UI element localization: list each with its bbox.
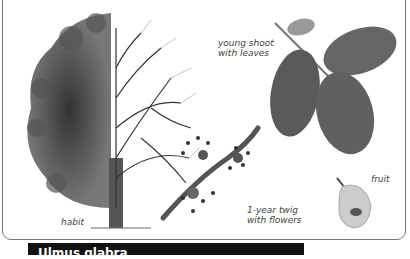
fruit-drawing <box>331 176 381 231</box>
twig-label: 1-year twig with flowers <box>247 205 302 225</box>
species-title: Ulmus glabra <box>38 246 128 259</box>
species-title-bar: Ulmus glabra <box>28 243 304 255</box>
young-shoot-drawing <box>265 13 405 158</box>
illustration-panel: habit young shoot with leaves 1-year twi… <box>2 0 406 240</box>
habit-label: habit <box>61 217 84 227</box>
